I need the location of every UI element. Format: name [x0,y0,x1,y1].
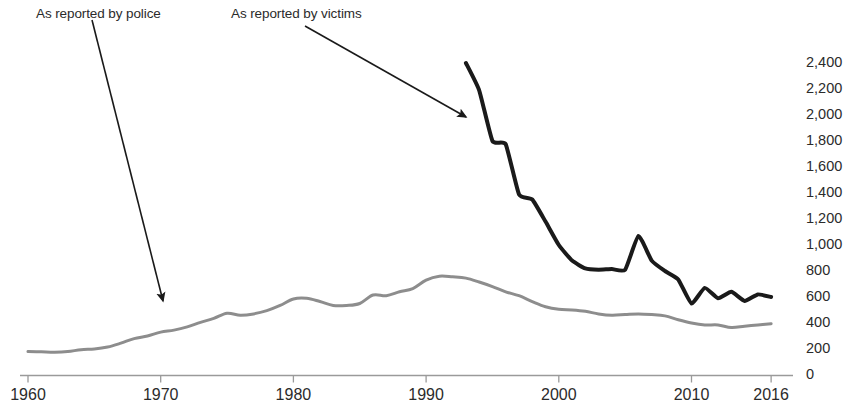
series-line-victims [466,63,771,304]
x-axis-ticks [28,376,771,383]
chart-root: As reported by police As reported by vic… [0,0,855,408]
y-axis-tick-label: 2,200 [806,80,842,96]
y-axis-tick-label: 1,600 [806,158,842,174]
y-axis-tick-label: 1,000 [806,236,842,252]
x-axis-tick-label: 2016 [753,386,789,404]
x-axis-tick-label: 2010 [674,386,710,404]
y-axis-tick-label: 2,000 [806,106,842,122]
x-axis [20,376,793,383]
annotation-arrow-victims [305,26,466,117]
y-axis-tick-label: 1,200 [806,210,842,226]
y-axis-tick-label: 800 [806,262,830,278]
y-axis-tick-label: 200 [806,340,830,356]
annotation-arrows [92,20,466,301]
annotation-label-victims: As reported by victims [231,6,362,21]
x-axis-tick-label: 1970 [143,386,179,404]
annotation-label-police: As reported by police [36,6,161,21]
x-axis-tick-label: 1980 [276,386,312,404]
line-chart-canvas [0,0,855,408]
y-axis-tick-label: 2,400 [806,54,842,70]
annotation-arrow-police [92,20,163,301]
x-axis-tick-label: 2000 [541,386,577,404]
x-axis-tick-label: 1990 [408,386,444,404]
y-axis-tick-label: 600 [806,288,830,304]
y-axis-tick-label: 1,400 [806,184,842,200]
x-axis-tick-label: 1960 [10,386,46,404]
y-axis-tick-label: 400 [806,314,830,330]
y-axis-tick-label: 0 [806,366,814,382]
series-line-police [28,276,771,352]
y-axis-tick-label: 1,800 [806,132,842,148]
